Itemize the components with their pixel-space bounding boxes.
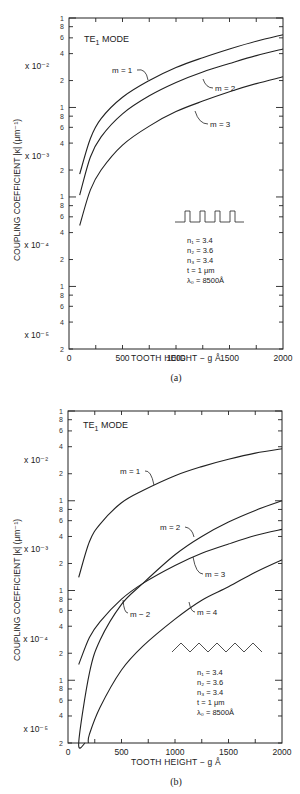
parameter-line: t = 1 μm — [197, 698, 224, 707]
series-curve-m1 — [80, 35, 283, 174]
plot-frame — [68, 411, 282, 743]
x-tick-label: 1500 — [219, 747, 238, 757]
series-label-m3: m = 3 — [210, 120, 231, 129]
x-tick-label: 500 — [114, 747, 128, 757]
series-label-m4: m = 4 — [197, 608, 218, 617]
x-tick-label: 0 — [66, 747, 71, 757]
y-tick-label: 4 — [60, 229, 64, 236]
x-tick-label: 0 — [67, 353, 72, 363]
series-label-m3: m = 3 — [205, 570, 226, 579]
parameter-line: λ₀ = 8500Å — [187, 276, 224, 285]
y-tick-label: 2 — [60, 256, 64, 263]
series-label-m2: m = 2 — [160, 523, 181, 532]
y-tick-label: 8 — [59, 506, 63, 513]
y-tick-label: 4 — [59, 712, 63, 719]
parameter-list: n₁ = 3.4n₂ = 3.6n₃ = 3.4t = 1 μmλ₀ = 850… — [187, 236, 224, 285]
panel-caption: (a) — [170, 372, 181, 384]
y-tick-label: 1 — [60, 193, 64, 200]
leader-line — [193, 557, 203, 574]
y-exponent-label: x 10⁻² — [24, 455, 48, 465]
series-label-m1: m = 1 — [120, 467, 141, 476]
panel-caption: (b) — [170, 776, 182, 788]
parameter-line: n₂ = 3.6 — [197, 678, 223, 687]
y-tick-label: 1 — [60, 15, 64, 22]
y-tick-label: 1 — [59, 408, 63, 415]
y-tick-label: 4 — [59, 533, 63, 540]
y-tick-label: 6 — [59, 697, 63, 704]
parameter-line: t = 1 μm — [187, 266, 214, 275]
triangular-grating-icon — [172, 643, 262, 652]
y-tick-label: 2 — [59, 470, 63, 477]
series-label-m2-lower: m − 2 — [130, 610, 151, 619]
series-curve-m2 — [79, 501, 282, 748]
series-curve-m4 — [88, 560, 282, 743]
y-tick-label: 4 — [60, 319, 64, 326]
leader-line — [137, 70, 148, 80]
x-axis-label: TOOTH HEIGHT − g Å — [131, 353, 221, 363]
x-tick-label: 2000 — [273, 747, 292, 757]
y-tick-label: 6 — [59, 427, 63, 434]
y-tick-label: 1 — [59, 497, 63, 504]
y-tick-label: 8 — [60, 23, 64, 30]
x-axis-label: TOOTH HEIGHT − g Å — [131, 757, 221, 767]
chart-title: TE1 MODE — [83, 420, 128, 432]
x-tick-label: 1500 — [220, 353, 239, 363]
y-tick-label: 1 — [59, 587, 63, 594]
y-tick-label: 6 — [59, 517, 63, 524]
y-tick-label: 8 — [59, 685, 63, 692]
y-exponent-label: x 10⁻³ — [25, 151, 49, 161]
data-curves — [79, 449, 282, 748]
x-tick-label: 1000 — [166, 747, 185, 757]
y-tick-label: 4 — [60, 140, 64, 147]
y-axis-label: COUPLING COEFFICIENT |κ| (μm⁻¹) — [12, 519, 22, 661]
x-axis-ticks: 0500100015002000 — [67, 18, 293, 363]
series-curve-m2 — [80, 49, 283, 195]
parameter-line: n₁ = 3.4 — [187, 236, 213, 245]
y-tick-label: 2 — [59, 650, 63, 657]
y-tick-label: 8 — [60, 113, 64, 120]
y-tick-label: 1 — [60, 283, 64, 290]
leader-line — [203, 79, 213, 88]
data-curves — [80, 35, 283, 226]
y-tick-label: 2 — [60, 167, 64, 174]
chart-title: TE1 MODE — [84, 34, 129, 46]
y-tick-label: 2 — [59, 740, 63, 747]
y-exponent-label: x 10⁻⁵ — [23, 724, 48, 734]
y-tick-label: 8 — [59, 596, 63, 603]
x-axis-ticks: 0500100015002000 — [66, 411, 292, 757]
chart-panel-a: 18642186421864218642x 10⁻²x 10⁻³x 10⁻⁴x … — [12, 15, 293, 385]
y-tick-label: 2 — [60, 77, 64, 84]
series-label-m1: m = 1 — [112, 66, 133, 75]
y-tick-label: 2 — [59, 560, 63, 567]
leader-line — [185, 527, 194, 537]
y-tick-label: 6 — [60, 34, 64, 41]
series-label-m2: m = 2 — [215, 84, 236, 93]
y-tick-label: 1 — [60, 104, 64, 111]
y-tick-label: 6 — [59, 607, 63, 614]
rectangular-grating-icon — [175, 211, 244, 222]
y-tick-label: 2 — [60, 346, 64, 353]
y-tick-label: 4 — [60, 50, 64, 57]
series-curve-m1 — [79, 449, 282, 578]
y-exponent-label: x 10⁻⁴ — [23, 634, 48, 644]
leader-line — [145, 471, 154, 485]
parameter-line: n₃ = 3.4 — [197, 688, 223, 697]
parameter-list: n₁ = 3.4n₂ = 3.6n₃ = 3.4t = 1 μmλ₀ = 850… — [197, 668, 234, 717]
y-exponent-label: x 10⁻³ — [24, 544, 48, 554]
y-tick-label: 8 — [60, 202, 64, 209]
y-tick-label: 8 — [59, 416, 63, 423]
x-tick-label: 2000 — [274, 353, 293, 363]
parameter-line: n₂ = 3.6 — [187, 246, 213, 255]
leader-line — [195, 111, 208, 124]
y-tick-label: 1 — [59, 677, 63, 684]
chart-panel-b: 18642186421864218642x 10⁻²x 10⁻³x 10⁻⁴x … — [12, 408, 292, 789]
y-tick-label: 6 — [60, 303, 64, 310]
y-tick-label: 4 — [59, 443, 63, 450]
y-tick-label: 8 — [60, 292, 64, 299]
parameter-line: λ₀ = 8500Å — [197, 708, 234, 717]
y-axis-label: COUPLING COEFFICIENT |κ| (μm⁻¹) — [12, 119, 22, 261]
y-tick-label: 6 — [60, 213, 64, 220]
y-axis-ticks: 18642186421864218642x 10⁻²x 10⁻³x 10⁻⁴x … — [24, 15, 283, 353]
y-exponent-label: x 10⁻⁴ — [24, 240, 49, 250]
series-curve-m3 — [80, 77, 283, 226]
